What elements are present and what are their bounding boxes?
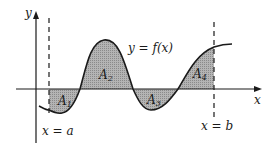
y-axis-arrow-icon bbox=[33, 11, 39, 19]
bound-label-a: x = a bbox=[42, 124, 74, 138]
bound-label-b: x = b bbox=[201, 119, 233, 133]
x-axis-label: x bbox=[254, 93, 261, 107]
y-axis-label: y bbox=[24, 6, 32, 20]
x-axis-arrow-icon bbox=[254, 86, 262, 92]
area-diagram: y x y = f(x) x = a x = b A1 A2 A3 A4 bbox=[0, 0, 273, 151]
curve-label: y = f(x) bbox=[127, 41, 173, 55]
